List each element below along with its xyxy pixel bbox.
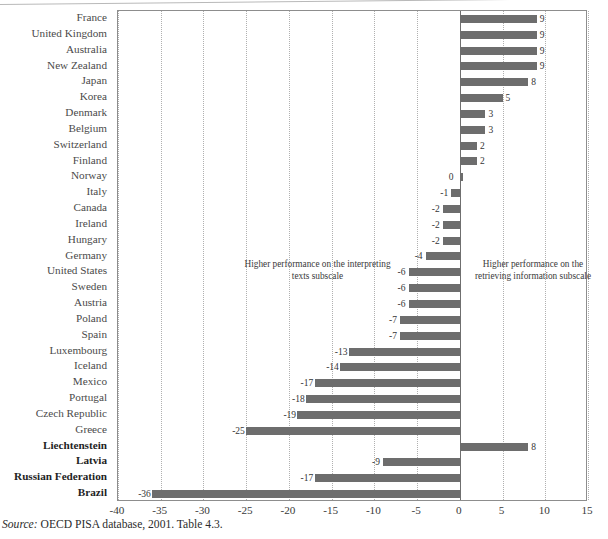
bar (460, 126, 486, 134)
bar (443, 221, 460, 229)
bar-value-label: -17 (301, 473, 312, 483)
bar-row: -2 (118, 233, 586, 249)
bar-value-label: 3 (488, 109, 493, 119)
bar-row: 5 (118, 90, 586, 106)
category-label: United States (47, 263, 107, 279)
bar (443, 205, 460, 213)
bar-row: 9 (118, 27, 586, 43)
x-tick-label: 0 (456, 503, 462, 517)
plot-area: 99998533220-1-2-2-2-4-6-6-6-7-7-13-14-17… (117, 10, 587, 501)
bar (409, 268, 460, 276)
source-label: Source: (2, 518, 38, 531)
bar-row: -6 (118, 280, 586, 296)
bar (409, 284, 460, 292)
category-label: Hungary (68, 232, 107, 248)
category-label: Greece (75, 422, 107, 438)
category-label: Brazil (78, 485, 107, 501)
bar-row: -6 (118, 296, 586, 312)
x-tick-label: -35 (152, 503, 167, 517)
x-tick-label: -15 (323, 503, 338, 517)
bar-row: -18 (118, 391, 586, 407)
bar-row: 9 (118, 43, 586, 59)
bar-value-label: 9 (540, 14, 545, 24)
category-label: Portugal (69, 390, 107, 406)
category-label: Belgium (68, 121, 107, 137)
category-label: Spain (82, 327, 107, 343)
category-label: Switzerland (54, 137, 107, 153)
category-label: Australia (66, 42, 107, 58)
x-tick-label: -40 (110, 503, 125, 517)
bar-value-label: 0 (449, 172, 454, 182)
bar (460, 47, 537, 55)
bar-row: -14 (118, 359, 586, 375)
category-label: Denmark (65, 105, 107, 121)
bar-row: -2 (118, 201, 586, 217)
x-tick-label: -10 (366, 503, 381, 517)
bar-value-label: 9 (540, 61, 545, 71)
x-tick-label: -5 (411, 503, 420, 517)
bar-row: 0 (118, 169, 586, 185)
bar (383, 458, 460, 466)
bar-value-label: 8 (531, 77, 536, 87)
bar (315, 474, 460, 482)
bar-row: -36 (118, 486, 586, 502)
bar (340, 363, 460, 371)
category-label: Germany (65, 248, 107, 264)
source-note: Source: OECD PISA database, 2001. Table … (2, 518, 223, 532)
bar-row: -9 (118, 454, 586, 470)
bar-value-label: 3 (488, 125, 493, 135)
bar (460, 62, 537, 70)
bar-value-label: -2 (429, 220, 440, 230)
bar-row: 2 (118, 154, 586, 170)
bar-value-label: 5 (506, 93, 511, 103)
bar (306, 395, 460, 403)
bar-row: -7 (118, 328, 586, 344)
bar (315, 379, 460, 387)
bar-row: 8 (118, 74, 586, 90)
bar (426, 252, 460, 260)
bar-row: 3 (118, 106, 586, 122)
annotation-left: Higher performance on the interpreting t… (240, 259, 395, 282)
bar-value-label: 8 (531, 442, 536, 452)
bar-value-label: -17 (301, 378, 312, 388)
bar-value-label: -7 (386, 331, 397, 341)
bar-value-label: -18 (292, 394, 303, 404)
bar-value-label: -2 (429, 204, 440, 214)
bar-value-label: -7 (386, 315, 397, 325)
category-label: Ireland (75, 216, 107, 232)
category-label: Mexico (73, 374, 107, 390)
bar-value-label: 9 (540, 30, 545, 40)
bar-value-label: 9 (540, 46, 545, 56)
category-axis-labels: FranceUnited KingdomAustraliaNew Zealand… (0, 10, 112, 501)
category-label: Czech Republic (36, 406, 107, 422)
bar-value-label: -14 (326, 362, 337, 372)
bar-series: 99998533220-1-2-2-2-4-6-6-6-7-7-13-14-17… (118, 11, 586, 500)
bar-value-label: -13 (335, 347, 346, 357)
bar-row: -7 (118, 312, 586, 328)
category-label: Russian Federation (14, 469, 107, 485)
category-label: Finland (73, 153, 107, 169)
bar-value-label: 2 (480, 141, 485, 151)
bar-value-label: -9 (369, 457, 380, 467)
bar (460, 15, 537, 23)
bar-row: 2 (118, 138, 586, 154)
x-tick-label: -30 (195, 503, 210, 517)
bar (460, 94, 503, 102)
bar-row: -17 (118, 375, 586, 391)
x-tick-label: 10 (539, 503, 550, 517)
bar (246, 427, 460, 435)
chart-figure: FranceUnited KingdomAustraliaNew Zealand… (0, 0, 608, 539)
bar-value-label: 2 (480, 156, 485, 166)
category-label: Sweden (72, 279, 107, 295)
category-label: Poland (76, 311, 107, 327)
category-label: Italy (86, 184, 107, 200)
bar (349, 348, 460, 356)
bar-value-label: -2 (429, 236, 440, 246)
x-tick-label: 15 (581, 503, 592, 517)
bar-row: -13 (118, 344, 586, 360)
bar-row: 9 (118, 59, 586, 75)
source-text: OECD PISA database, 2001. Table 4.3. (38, 518, 223, 531)
bar-value-label: -6 (395, 283, 406, 293)
category-label: Japan (82, 73, 107, 89)
bar (460, 31, 537, 39)
